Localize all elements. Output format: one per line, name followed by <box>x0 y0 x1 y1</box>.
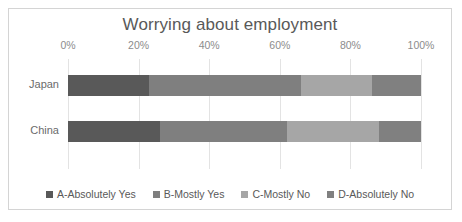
chart-frame: Worrying about employment JapanChina 0%2… <box>8 8 452 210</box>
category-label-japan: Japan <box>29 78 59 90</box>
legend-swatch-icon <box>153 191 160 198</box>
bar-segment <box>287 121 379 142</box>
legend-label: D-Absolutely No <box>338 188 414 200</box>
category-label-china: China <box>30 124 59 136</box>
bar-segment <box>160 121 287 142</box>
x-axis-tick-labels: 0%20%40%60%80%100% <box>68 39 421 55</box>
bar-row <box>68 75 421 96</box>
legend-item[interactable]: A-Absolutely Yes <box>46 188 136 200</box>
legend-swatch-icon <box>327 191 334 198</box>
bar-segment <box>149 75 301 96</box>
x-tick-label: 40% <box>199 39 220 51</box>
legend-item[interactable]: C-Mostly No <box>241 188 310 200</box>
chart-title: Worrying about employment <box>9 15 451 35</box>
x-tick-label: 60% <box>269 39 290 51</box>
bar-segment <box>68 75 149 96</box>
x-tick-label: 20% <box>128 39 149 51</box>
bar-segment <box>301 75 372 96</box>
x-tick-label: 100% <box>408 39 435 51</box>
legend-swatch-icon <box>241 191 248 198</box>
legend-swatch-icon <box>46 191 53 198</box>
bar-segment <box>68 121 160 142</box>
legend-item[interactable]: B-Mostly Yes <box>153 188 225 200</box>
plot-area: 0%20%40%60%80%100% <box>68 39 421 169</box>
legend-label: B-Mostly Yes <box>164 188 225 200</box>
bar-segment <box>372 75 421 96</box>
gridline <box>421 59 422 169</box>
x-tick-label: 0% <box>60 39 75 51</box>
stacked-bars <box>68 59 421 169</box>
bar-segment <box>379 121 421 142</box>
x-tick-label: 80% <box>340 39 361 51</box>
legend-label: A-Absolutely Yes <box>57 188 136 200</box>
chart-legend: A-Absolutely YesB-Mostly YesC-Mostly NoD… <box>9 188 451 200</box>
bar-row <box>68 121 421 142</box>
legend-item[interactable]: D-Absolutely No <box>327 188 414 200</box>
y-axis-category-labels: JapanChina <box>9 59 66 169</box>
legend-label: C-Mostly No <box>252 188 310 200</box>
